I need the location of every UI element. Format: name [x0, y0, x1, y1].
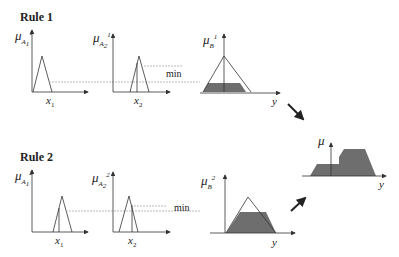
- diagram-graphics: [0, 0, 399, 257]
- mu-b1-label: μB1: [203, 33, 217, 50]
- rule1-title: Rule 1: [20, 11, 53, 23]
- fuzzy-inference-diagram: Rule 1 Rule 2 μA11 μA21 μB1 x1 x2 y min …: [0, 0, 399, 257]
- arrow-down-right: [288, 104, 303, 119]
- x2-label-rule1: x2: [134, 95, 142, 109]
- aggregate-output-plot: [302, 143, 386, 176]
- rule1-a1-plot: [32, 30, 200, 92]
- mu-a2-2-label: μA22: [92, 171, 110, 190]
- mu-aggregate-label: μ: [318, 134, 325, 147]
- rule1-a2-plot: [113, 34, 182, 92]
- rule2-b-plot: [210, 175, 295, 233]
- y-label-rule2: y: [272, 237, 277, 248]
- rule2-a2-plot: [113, 172, 170, 232]
- rule2-a1-plot: [32, 170, 200, 232]
- y-label-aggregate: y: [379, 179, 384, 190]
- x1-label-rule1: x1: [46, 95, 54, 109]
- mu-a1-2-label: μA12: [15, 169, 33, 188]
- mu-b2-label: μB2: [201, 174, 215, 191]
- x1-label-rule2: x1: [55, 235, 63, 249]
- min-label-rule2: min: [174, 203, 190, 213]
- min-label-rule1: min: [166, 69, 182, 79]
- rule2-title: Rule 2: [20, 151, 53, 163]
- mu-a2-1-label: μA21: [93, 31, 111, 50]
- x2-label-rule2: x2: [128, 235, 136, 249]
- y-label-rule1: y: [272, 96, 277, 107]
- arrow-up-right: [291, 198, 305, 211]
- mu-a1-1-label: μA11: [15, 29, 33, 48]
